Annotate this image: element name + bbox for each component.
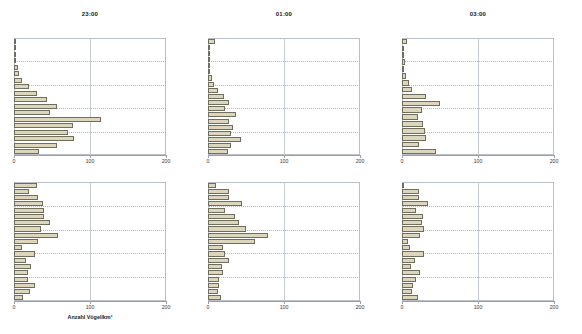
chart-panel-6: 0100200 [0,0,582,334]
bar [402,270,420,275]
bar [402,208,416,213]
plot-area [402,182,554,301]
bar [402,226,424,231]
bar [402,183,404,188]
bar-series [402,182,554,301]
bar [402,239,408,244]
bar [402,220,422,225]
bar [402,189,419,194]
bar [402,289,412,294]
x-axis-tick-label: 100 [474,304,483,310]
bar [402,251,424,256]
figure-canvas: 23:00010020001:00010020003:0001002000100… [0,0,582,334]
x-axis-tick-label: 0 [401,304,404,310]
bar [402,295,418,300]
bar [402,201,428,206]
bar [402,277,416,282]
bar [402,258,415,263]
bar [402,233,420,238]
bar [402,264,411,269]
bar [402,245,410,250]
x-axis-tick-label: 200 [550,304,559,310]
bar [402,283,413,288]
bar [402,214,423,219]
bar [402,195,419,200]
